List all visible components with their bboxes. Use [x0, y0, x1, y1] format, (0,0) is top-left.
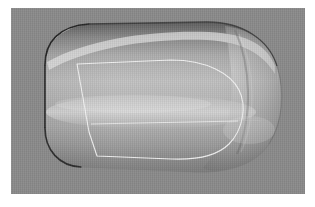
- body-render-canvas: [11, 8, 305, 194]
- figure-root: [0, 0, 315, 207]
- flank-specular-core: [55, 95, 211, 113]
- render-viewport: [11, 8, 305, 194]
